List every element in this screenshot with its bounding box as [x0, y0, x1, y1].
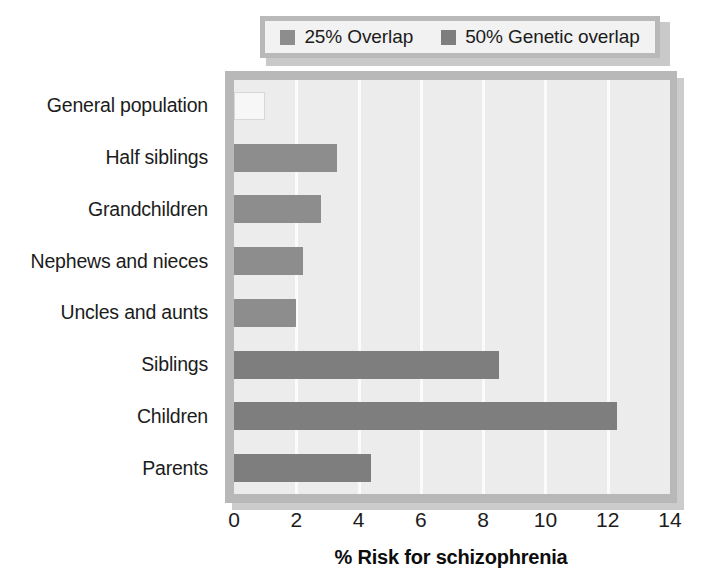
- bar-row: [234, 339, 670, 391]
- x-tick-14: 14: [658, 508, 681, 532]
- x-tick-4: 4: [353, 508, 365, 532]
- y-axis-label-siblings: Siblings: [141, 339, 208, 391]
- bar-row: [234, 235, 670, 287]
- y-axis-label-uncles-and-aunts: Uncles and aunts: [61, 287, 208, 339]
- legend-entry-50-genetic-overlap: 50% Genetic overlap: [441, 26, 639, 48]
- x-tick-10: 10: [534, 508, 557, 532]
- bar-siblings: [234, 351, 499, 379]
- bar-general-population: [234, 92, 265, 120]
- legend-swatch-50-genetic-overlap: [441, 30, 456, 45]
- y-axis-label-general-population: General population: [47, 80, 208, 132]
- chart-figure: 25% Overlap 50% Genetic overlap General …: [0, 0, 708, 587]
- bar-nephews-and-nieces: [234, 247, 303, 275]
- bar-row: [234, 442, 670, 494]
- bar-row: [234, 391, 670, 443]
- y-axis-label-grandchildren: Grandchildren: [88, 184, 208, 236]
- x-tick-12: 12: [596, 508, 619, 532]
- bar-series: [234, 80, 670, 494]
- bar-children: [234, 402, 617, 430]
- chart-legend: 25% Overlap 50% Genetic overlap: [260, 16, 660, 58]
- bar-parents: [234, 454, 371, 482]
- legend-label-50-genetic-overlap: 50% Genetic overlap: [465, 26, 639, 48]
- x-tick-8: 8: [477, 508, 489, 532]
- bar-row: [234, 287, 670, 339]
- bar-grandchildren: [234, 195, 321, 223]
- y-axis-category-labels: General populationHalf siblingsGrandchil…: [0, 80, 220, 494]
- y-axis-label-nephews-and-nieces: Nephews and nieces: [31, 235, 208, 287]
- bar-row: [234, 184, 670, 236]
- bar-half-siblings: [234, 144, 337, 172]
- plot-area: [234, 80, 670, 494]
- x-tick-0: 0: [228, 508, 240, 532]
- bar-row: [234, 80, 670, 132]
- legend-label-25-overlap: 25% Overlap: [304, 26, 413, 48]
- x-tick-2: 2: [290, 508, 302, 532]
- x-tick-6: 6: [415, 508, 427, 532]
- y-axis-label-parents: Parents: [142, 442, 208, 494]
- legend-entry-25-overlap: 25% Overlap: [280, 26, 413, 48]
- bar-uncles-and-aunts: [234, 299, 296, 327]
- bar-row: [234, 132, 670, 184]
- y-axis-label-children: Children: [137, 391, 208, 443]
- x-axis-title: % Risk for schizophrenia: [225, 546, 677, 569]
- legend-swatch-25-overlap: [280, 30, 295, 45]
- x-axis-tick-labels: 02468101214: [234, 508, 670, 538]
- y-axis-label-half-siblings: Half siblings: [105, 132, 208, 184]
